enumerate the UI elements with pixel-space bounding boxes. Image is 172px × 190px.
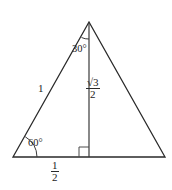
halfbase-length-label: 1 2 <box>51 160 59 183</box>
halfbase-denominator: 2 <box>51 172 59 183</box>
right-angle-marker-icon <box>79 147 89 157</box>
angle-label-base-left: 60° <box>28 138 43 149</box>
geometry-figure: 30° 1 60° √3 2 1 2 <box>0 0 172 190</box>
angle-arc-30-icon <box>82 38 90 40</box>
side-label-hypotenuse: 1 <box>38 83 44 94</box>
altitude-length-label: √3 2 <box>86 77 100 100</box>
angle-label-apex: 30° <box>72 44 87 55</box>
altitude-denominator: 2 <box>86 89 100 100</box>
